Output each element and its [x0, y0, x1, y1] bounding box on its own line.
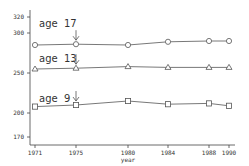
y-tick-label: 250 — [13, 69, 24, 76]
annotation-age-13: age 13 — [39, 53, 79, 64]
y-tick-label: 320 — [13, 13, 24, 20]
annotation-age-17: age 17 — [39, 18, 79, 40]
triangle-marker — [32, 66, 38, 71]
x-tick-label: 1988 — [202, 149, 217, 156]
series-age-13 — [32, 64, 232, 71]
square-marker — [32, 104, 37, 109]
square-marker — [226, 103, 231, 108]
annotation-label: age 9 — [39, 93, 70, 104]
triangle-marker — [125, 64, 131, 69]
x-tick-label: 1971 — [28, 149, 43, 156]
circle-marker — [125, 42, 130, 47]
circle-marker — [73, 42, 78, 47]
square-marker — [73, 102, 78, 107]
annotation-layer: age 17age 13age 9 — [39, 18, 79, 104]
x-tick-label: 1980 — [121, 149, 136, 156]
square-marker — [165, 102, 170, 107]
circle-marker — [226, 38, 231, 43]
y-tick-label: 170 — [13, 133, 24, 140]
annotation-label: age 17 — [39, 18, 77, 29]
circle-marker — [32, 42, 37, 47]
x-tick-label: 1990 — [222, 149, 237, 156]
series-age-17 — [32, 38, 231, 47]
triangle-marker — [165, 64, 171, 69]
y-axis: 170200250300320 — [13, 10, 30, 145]
triangle-marker — [206, 64, 212, 69]
x-tick-label: 1975 — [69, 149, 84, 156]
y-tick-label: 200 — [13, 109, 24, 116]
annotation-label: age 13 — [39, 53, 77, 64]
circle-marker — [165, 39, 170, 44]
y-tick-label: 300 — [13, 29, 24, 36]
x-tick-label: 1984 — [161, 149, 176, 156]
square-marker — [125, 98, 130, 103]
x-axis: 197119751980198419881990 — [28, 145, 237, 156]
x-axis-title: year — [121, 156, 136, 164]
line-chart: 170200250300320 197119751980198419881990… — [0, 0, 249, 166]
triangle-marker — [226, 64, 232, 69]
circle-marker — [206, 38, 211, 43]
square-marker — [206, 101, 211, 106]
triangle-marker — [73, 65, 79, 70]
